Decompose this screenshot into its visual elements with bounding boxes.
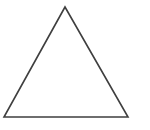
figure-canvas — [0, 0, 150, 130]
canvas-background — [0, 0, 150, 130]
triangle-drawing — [0, 0, 150, 130]
